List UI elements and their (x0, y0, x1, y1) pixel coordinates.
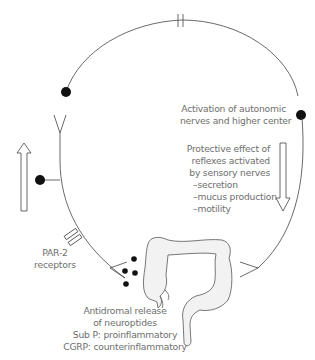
synapse-icon (54, 115, 66, 133)
receptor-icon (64, 228, 82, 245)
label-line: of neuroptides (55, 317, 195, 329)
down-arrow-icon (276, 143, 290, 211)
neuron-dot-icon (35, 175, 45, 185)
synapse-icon (240, 262, 258, 277)
up-arrow-icon (17, 143, 31, 211)
antidromal-label: Antidromal release of neuroptides Sub P:… (55, 305, 195, 353)
efferent-nerve-arc (66, 20, 298, 96)
label-line: reflexes activated (180, 155, 270, 167)
label-line: Sub P: proinflammatory (55, 329, 195, 341)
label-line: PAR-2 (30, 247, 80, 259)
label-line: by sensory nerves (180, 167, 270, 179)
effects-list: –secretion –mucus production –motility (193, 179, 277, 215)
effect-item: –mucus production (193, 191, 277, 203)
neuron-dot-icon (296, 110, 306, 120)
label-line: Activation of autonomic (180, 103, 286, 115)
protective-label: Protective effect of reflexes activated … (180, 143, 270, 179)
label-line: CGRP: counterinflammatory (55, 341, 195, 353)
effect-item: –secretion (193, 179, 277, 191)
par2-label: PAR-2 receptors (30, 247, 80, 271)
label-line: nerves and higher center (180, 115, 286, 127)
neuron-dot-icon (61, 87, 71, 97)
neuropeptide-dots (122, 256, 138, 287)
activation-label: Activation of autonomic nerves and highe… (180, 103, 286, 127)
label-line: Antidromal release (55, 305, 195, 317)
label-line: receptors (30, 259, 80, 271)
effect-item: –motility (193, 203, 277, 215)
label-line: Protective effect of (180, 143, 270, 155)
